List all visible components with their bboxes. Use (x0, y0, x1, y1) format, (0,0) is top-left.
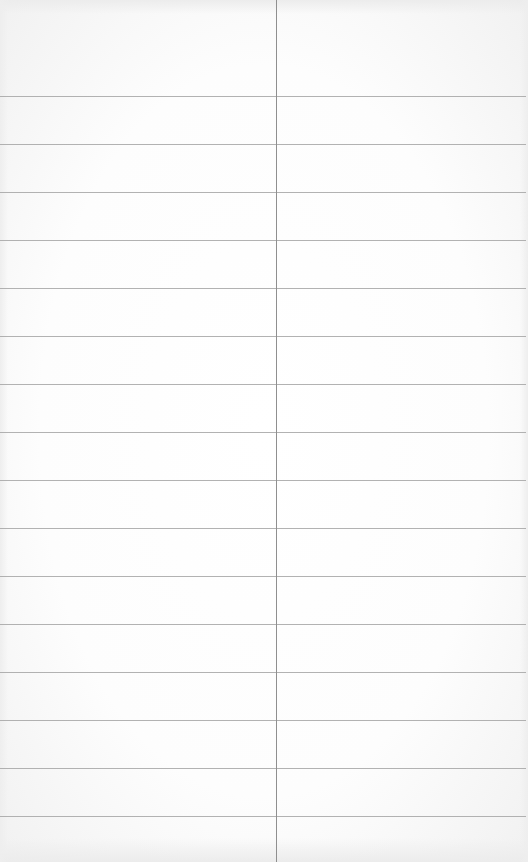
cell-left (0, 625, 276, 672)
cell-right (277, 721, 528, 768)
paper-edge-shadow-top (0, 0, 528, 14)
cell-right (277, 769, 528, 816)
cell-left (0, 193, 276, 240)
cell-right (277, 433, 528, 480)
cell-right (277, 289, 528, 336)
cell-right (277, 241, 528, 288)
cell-right (277, 529, 528, 576)
cell-right (277, 385, 528, 432)
cell-left (0, 433, 276, 480)
cell-right (277, 577, 528, 624)
cell-right (277, 145, 528, 192)
cell-left (0, 97, 276, 144)
cell-left (0, 769, 276, 816)
cell-right (277, 193, 528, 240)
cell-right (277, 673, 528, 720)
cell-left (0, 529, 276, 576)
cell-left (0, 817, 276, 862)
cell-left (0, 241, 276, 288)
cell-left (0, 289, 276, 336)
cell-left (0, 721, 276, 768)
cell-left (0, 577, 276, 624)
cell-right (277, 97, 528, 144)
cell-right (277, 817, 528, 862)
cell-left (0, 385, 276, 432)
cell-right (277, 48, 528, 95)
cell-left (0, 673, 276, 720)
ruled-paper-sheet (0, 0, 528, 862)
cell-left (0, 481, 276, 528)
cell-right (277, 625, 528, 672)
cell-right (277, 337, 528, 384)
cell-left (0, 145, 276, 192)
cell-right (277, 481, 528, 528)
cell-left (0, 48, 276, 95)
cell-left (0, 337, 276, 384)
